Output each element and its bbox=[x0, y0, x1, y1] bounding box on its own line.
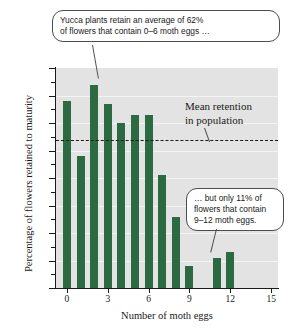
y-tick-0 bbox=[49, 288, 55, 289]
y-tick-30 bbox=[49, 206, 55, 207]
annotation-left-line2: of flowers that contain 0–6 moth eggs … bbox=[60, 26, 272, 37]
bar-9 bbox=[185, 266, 193, 288]
annotation-right-line3: 9–12 moth eggs. bbox=[194, 215, 276, 226]
y-tick-minor-45 bbox=[51, 164, 55, 165]
x-tick-label-3: 3 bbox=[93, 294, 123, 304]
bar-5 bbox=[131, 115, 139, 288]
y-tick-10 bbox=[49, 261, 55, 262]
annotation-right-line2: flowers that contain bbox=[194, 204, 276, 215]
bar-2 bbox=[90, 85, 98, 289]
y-tick-70 bbox=[49, 96, 55, 97]
y-tick-minor-35 bbox=[51, 192, 55, 193]
x-tick-3 bbox=[108, 288, 109, 293]
x-tick-12 bbox=[230, 288, 231, 293]
mean-retention-label-line2: in population bbox=[185, 113, 252, 127]
annotation-right: … but only 11% of flowers that contain 9… bbox=[186, 188, 284, 231]
mean-retention-line bbox=[56, 140, 278, 141]
bar-6 bbox=[145, 115, 153, 288]
annotation-left: Yucca plants retain an average of 62% of… bbox=[52, 10, 280, 42]
x-tick-0 bbox=[67, 288, 68, 293]
y-axis-line bbox=[55, 67, 56, 289]
bar-3 bbox=[104, 104, 112, 288]
bar-12 bbox=[226, 252, 234, 288]
x-tick-label-0: 0 bbox=[52, 294, 82, 304]
bar-1 bbox=[77, 156, 85, 288]
y-tick-40 bbox=[49, 178, 55, 179]
y-tick-50 bbox=[49, 151, 55, 152]
annotation-left-line1: Yucca plants retain an average of 62% bbox=[60, 15, 272, 26]
x-tick-label-15: 15 bbox=[256, 294, 286, 304]
x-tick-label-9: 9 bbox=[174, 294, 204, 304]
y-tick-20 bbox=[49, 233, 55, 234]
x-tick-label-12: 12 bbox=[215, 294, 245, 304]
mean-retention-label-line1: Mean retention bbox=[185, 99, 252, 113]
x-axis-title: Number of moth eggs bbox=[56, 310, 278, 321]
annotation-right-line1: … but only 11% of bbox=[194, 193, 276, 204]
bar-chart-figure: 01020304050607080 03691215 Number of mot… bbox=[0, 0, 294, 333]
x-axis-line bbox=[55, 288, 279, 289]
x-tick-6 bbox=[149, 288, 150, 293]
x-tick-label-6: 6 bbox=[134, 294, 164, 304]
y-tick-minor-25 bbox=[51, 219, 55, 220]
bar-4 bbox=[117, 123, 125, 288]
bar-0 bbox=[63, 101, 71, 288]
y-tick-minor-5 bbox=[51, 274, 55, 275]
x-tick-9 bbox=[189, 288, 190, 293]
y-tick-minor-55 bbox=[51, 137, 55, 138]
bar-7 bbox=[158, 175, 166, 288]
bar-8 bbox=[172, 217, 180, 289]
y-tick-80 bbox=[49, 68, 55, 69]
y-tick-minor-75 bbox=[51, 82, 55, 83]
mean-retention-label: Mean retention in population bbox=[185, 99, 252, 127]
x-tick-15 bbox=[271, 288, 272, 293]
y-axis-title: Percentage of flowers retained to maturi… bbox=[23, 64, 34, 304]
y-tick-minor-15 bbox=[51, 247, 55, 248]
y-tick-60 bbox=[49, 123, 55, 124]
bar-11 bbox=[213, 258, 221, 288]
y-tick-minor-65 bbox=[51, 109, 55, 110]
